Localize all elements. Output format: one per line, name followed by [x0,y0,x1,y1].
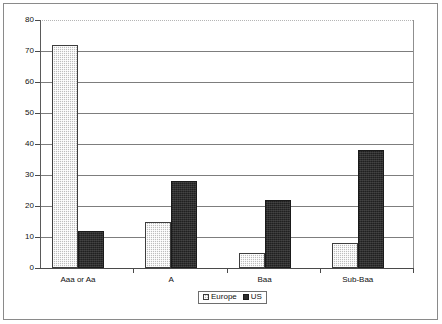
bar-us-sub-baa [358,150,384,268]
bar-europe-a [145,222,171,269]
gridline-40 [40,144,413,145]
y-axis-tick-label: 70 [0,47,34,55]
legend-entry-europe: Europe [203,293,237,301]
x-tick-mark [413,268,414,273]
legend-swatch-europe [203,294,209,300]
legend-label-europe: Europe [211,293,237,301]
y-tick-mark-10 [35,237,40,238]
x-axis-label-aaa-or-aa: Aaa or Aa [33,275,123,284]
plot-right-edge [413,20,414,269]
y-tick-mark-20 [35,206,40,207]
x-tick-mark [133,268,134,273]
x-axis-label-a: A [126,275,216,284]
y-axis-tick-label: 40 [0,140,34,148]
y-axis-tick-label: 0 [0,264,34,272]
chart-legend: EuropeUS [198,291,267,304]
y-axis-tick-label: 20 [0,202,34,210]
y-axis-tick-label: 10 [0,233,34,241]
y-tick-mark-60 [35,82,40,83]
x-axis-label-sub-baa: Sub-Baa [313,275,403,284]
plot-area [40,20,413,268]
legend-entry-us: US [243,293,262,301]
y-tick-mark-0 [35,268,40,269]
y-tick-mark-70 [35,51,40,52]
y-axis-tick-label: 80 [0,16,34,24]
gridline-80 [40,20,413,21]
legend-label-us: US [251,293,262,301]
bar-us-aaa-or-aa [78,231,104,268]
bar-us-a [171,181,197,268]
gridline-70 [40,51,413,52]
x-tick-mark [227,268,228,273]
y-axis-tick-label: 60 [0,78,34,86]
y-tick-mark-30 [35,175,40,176]
y-tick-mark-80 [35,20,40,21]
x-axis-label-baa: Baa [220,275,310,284]
gridline-50 [40,113,413,114]
y-tick-mark-40 [35,144,40,145]
y-tick-mark-50 [35,113,40,114]
y-axis-line [40,20,41,269]
y-axis-tick-label: 50 [0,109,34,117]
x-tick-mark [320,268,321,273]
bar-europe-sub-baa [332,243,358,268]
legend-swatch-us [243,294,249,300]
y-axis-tick-label: 30 [0,171,34,179]
bar-chart-figure: EuropeUS 01020304050607080Aaa or AaABaaS… [0,0,442,324]
bar-us-baa [265,200,291,268]
bar-europe-baa [239,253,265,269]
gridline-60 [40,82,413,83]
bar-europe-aaa-or-aa [52,45,78,268]
